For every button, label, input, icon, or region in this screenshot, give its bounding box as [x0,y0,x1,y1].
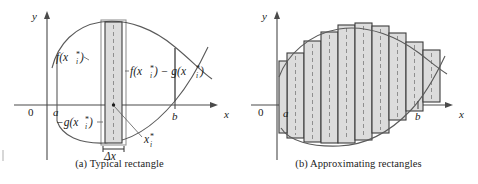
rect-6 [372,26,389,133]
rect-10 [279,61,287,133]
figure-a-canvas: y x 0 a b f(x * i ) −g(x * i ) f(x * i )… [0,0,239,160]
right-bound-label-b: b [172,110,178,122]
x-axis-label-b: x [458,108,464,120]
svg-text:f(x: f(x [130,65,143,78]
rect-7 [389,33,406,120]
origin-label-b: 0 [258,106,264,118]
rect-1 [287,53,304,138]
svg-text:−g(x: −g(x [56,116,79,129]
figure-b-canvas: y x 0 a b [239,0,478,160]
caption-a: (a) Typical rectangle [0,158,239,169]
panel-approximating-rectangles: y x 0 a b (b) Approximating rectangles [239,0,478,184]
origin-label: 0 [28,106,34,118]
svg-text:i: i [150,71,152,80]
y-axis-a [44,11,50,160]
svg-text:): ) [79,51,84,64]
approximating-rectangles [279,23,440,143]
svg-text:x: x [143,133,150,145]
x-axis-label: x [223,108,229,120]
label-sample-point: x * i [143,132,154,149]
svg-text:): ) [199,65,204,78]
svg-text:i: i [150,140,152,149]
label-height-expression: f(x * i ) − g(x * i ) [130,64,204,80]
svg-text:) − g(x: ) − g(x [153,65,187,78]
svg-text:i: i [85,122,87,131]
rect-4 [338,25,355,143]
typical-rectangle [101,20,126,145]
svg-text:i: i [76,57,78,66]
rect-8 [406,42,423,111]
label-upper-curve-value: f(x * i ) [56,50,84,66]
rect-5 [355,23,372,140]
svg-text:i: i [196,71,198,80]
leader-f [84,57,89,60]
y-axis-label: y [31,10,37,22]
svg-text:): ) [88,116,93,129]
y-axis-label-b: y [261,10,267,22]
rect-2 [304,41,321,142]
right-bound-label-b-b: b [415,110,421,122]
rect-3 [321,32,338,143]
svg-text:f(x: f(x [56,51,69,64]
caption-b: (b) Approximating rectangles [239,158,478,169]
panel-typical-rectangle: y x 0 a b f(x * i ) −g(x * i ) f(x * i )… [0,0,239,184]
left-bound-label-a-b: a [283,107,289,119]
